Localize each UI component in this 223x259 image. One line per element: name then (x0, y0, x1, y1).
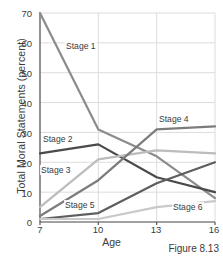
series-label-stage-3: Stage 3 (40, 165, 72, 175)
x-tick-label-10: 10 (87, 224, 109, 235)
plot-area (0, 0, 223, 259)
x-tick-label-7: 7 (29, 224, 51, 235)
x-tick-label-13: 13 (145, 224, 167, 235)
figure-caption: Figure 8.13 (168, 243, 219, 254)
series-label-stage-5: Stage 5 (64, 200, 96, 210)
series-label-stage-6: Stage 6 (172, 202, 204, 212)
figure-container: Total Moral Statements (percent) 70 60 5… (0, 0, 223, 259)
series-label-stage-2: Stage 2 (42, 134, 74, 144)
x-tick-label-16: 16 (203, 224, 223, 235)
series-label-stage-4: Stage 4 (158, 114, 190, 124)
series-label-stage-1: Stage 1 (65, 41, 97, 51)
